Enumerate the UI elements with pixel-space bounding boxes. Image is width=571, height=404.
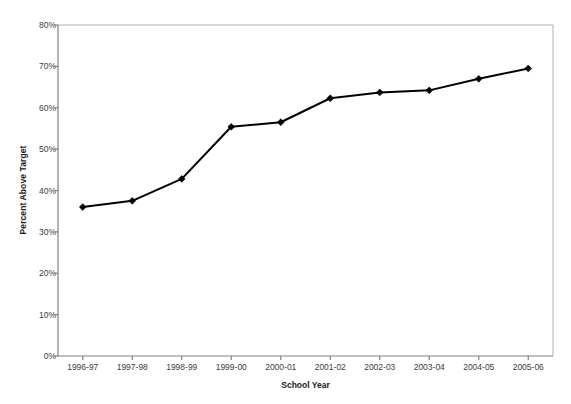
data-point-marker: [129, 197, 136, 204]
data-point-marker: [525, 65, 532, 72]
data-point-marker: [79, 204, 86, 211]
plot-area: [0, 0, 571, 404]
data-series-group: [79, 65, 531, 210]
line-chart: Percent Above Target 0%10%20%30%40%50%60…: [0, 0, 571, 404]
data-point-marker: [426, 87, 433, 94]
data-point-marker: [475, 75, 482, 82]
plot-frame: [58, 25, 553, 356]
data-point-marker: [327, 95, 334, 102]
data-point-marker: [277, 119, 284, 126]
data-line: [83, 68, 529, 207]
data-point-marker: [376, 89, 383, 96]
